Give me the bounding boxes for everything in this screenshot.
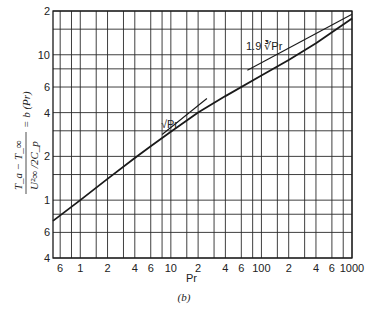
x-tick-label: 6 xyxy=(57,262,63,274)
y-axis-ticks: 461246102 xyxy=(38,5,50,264)
x-tick-label: 2 xyxy=(286,262,292,274)
annotation-sqrt-pr: √Pr xyxy=(161,118,178,130)
y-label-denominator: U²∞ /2C_p xyxy=(28,141,40,190)
x-tick-label: 6 xyxy=(238,262,244,274)
x-tick-label: 1 xyxy=(77,262,83,274)
y-tick-label: 6 xyxy=(44,81,50,93)
data-series xyxy=(53,14,352,221)
annotation-cbrt-pr: 1.9 ∛Pr xyxy=(246,40,283,52)
x-axis-ticks: 61246102461002461000 xyxy=(57,262,364,274)
y-tick-label: 4 xyxy=(44,252,50,264)
x-tick-label: 10 xyxy=(165,262,177,274)
chart: 461246102 61246102461002461000 √Pr 1.9 ∛… xyxy=(0,0,368,313)
x-tick-label: 6 xyxy=(148,262,154,274)
y-label-rhs: = b (Pr) xyxy=(20,91,33,128)
x-tick-label: 6 xyxy=(329,262,335,274)
x-tick-label: 4 xyxy=(313,262,319,274)
y-tick-label: 1 xyxy=(44,194,50,206)
x-tick-label: 100 xyxy=(252,262,270,274)
y-tick-label: 2 xyxy=(44,150,50,162)
y-tick-label: 2 xyxy=(44,5,50,17)
x-tick-label: 1000 xyxy=(340,262,364,274)
x-tick-label: 2 xyxy=(104,262,110,274)
y-label-numerator: T_a − T_∞ xyxy=(12,140,24,190)
x-tick-label: 4 xyxy=(222,262,228,274)
x-axis-title: Pr xyxy=(186,272,197,284)
y-tick-label: 4 xyxy=(44,107,50,119)
main-curve xyxy=(53,18,352,221)
y-axis-label: T_a − T_∞ U²∞ /2C_p = b (Pr) xyxy=(12,91,40,194)
y-tick-label: 10 xyxy=(38,49,50,61)
figure-caption: (b) xyxy=(0,291,368,303)
x-tick-label: 4 xyxy=(132,262,138,274)
y-tick-label: 6 xyxy=(44,226,50,238)
